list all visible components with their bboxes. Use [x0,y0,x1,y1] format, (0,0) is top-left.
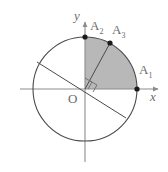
geometry-figure: y x O A1 A2 A3 [0,0,168,172]
point-a3-marker [107,40,112,45]
point-a3-subscript: 3 [121,31,125,40]
point-a1-label: A1 [139,63,152,80]
point-a2-label: A2 [90,19,103,36]
point-a1-subscript: 1 [148,71,152,80]
point-a3-label: A3 [112,23,125,40]
point-a1-marker [134,86,139,91]
point-a2-base: A [90,18,99,33]
point-a2-marker [82,34,87,39]
point-a2-subscript: 2 [99,27,103,36]
figure-canvas [0,0,168,172]
point-a3-base: A [112,22,121,37]
y-axis-label: y [74,9,80,22]
origin-label: O [68,92,77,105]
point-a1-base: A [139,62,148,77]
x-axis-label: x [150,90,156,103]
